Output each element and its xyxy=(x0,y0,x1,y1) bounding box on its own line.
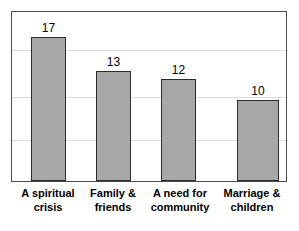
bar-value-1: 13 xyxy=(96,56,131,69)
category-label-0-line-1: crisis xyxy=(11,200,85,214)
category-label-2-line-1: community xyxy=(141,200,219,214)
category-label-2: A need for community xyxy=(141,186,219,214)
bar-value-3: 10 xyxy=(237,85,279,98)
category-label-3-line-0: Marriage & xyxy=(214,186,290,200)
category-label-1-line-1: friends xyxy=(76,200,150,214)
category-label-3-line-1: children xyxy=(214,200,290,214)
chart-page: 17 13 12 10 A spiritual crisis Family & … xyxy=(0,0,299,231)
category-label-0: A spiritual crisis xyxy=(11,186,85,214)
plot-frame: 17 13 12 10 xyxy=(11,11,287,182)
category-label-2-line-0: A need for xyxy=(141,186,219,200)
bar-value-0: 17 xyxy=(31,22,66,35)
bar-3 xyxy=(237,100,279,181)
bar-value-2: 12 xyxy=(161,64,196,77)
bar-0 xyxy=(31,37,66,181)
category-label-1-line-0: Family & xyxy=(76,186,150,200)
category-label-1: Family & friends xyxy=(76,186,150,214)
bar-1 xyxy=(96,71,131,181)
category-axis: A spiritual crisis Family & friends A ne… xyxy=(11,186,287,226)
plot-area: 17 13 12 10 xyxy=(12,12,286,181)
category-label-0-line-0: A spiritual xyxy=(11,186,85,200)
bar-2 xyxy=(161,79,196,181)
category-label-3: Marriage & children xyxy=(214,186,290,214)
